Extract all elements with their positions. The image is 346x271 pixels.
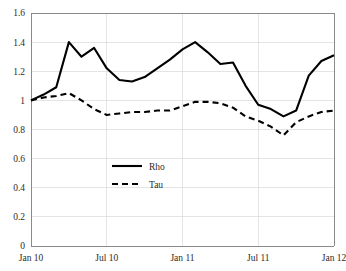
y-tick-label: 0.8 — [13, 125, 25, 135]
x-tick-label: Jul 10 — [95, 253, 118, 263]
legend-label-rho: Rho — [149, 162, 165, 172]
chart-legend: RhoTau — [112, 162, 165, 190]
y-tick-labels: 00.20.40.60.811.21.41.6 — [13, 8, 25, 251]
y-tick-label: 1.6 — [13, 8, 25, 18]
y-tick-label: 0.2 — [13, 212, 25, 222]
y-tick-label: 0.6 — [13, 154, 25, 164]
x-tick-labels: Jan 10Jul 10Jan 11Jul 11Jan 12 — [19, 253, 346, 263]
gridlines — [31, 13, 334, 246]
x-tick-label: Jul 11 — [247, 253, 270, 263]
x-tick-label: Jan 11 — [170, 253, 194, 263]
y-tick-label: 1.4 — [13, 38, 25, 48]
x-tick-label: Jan 10 — [19, 253, 44, 263]
x-tick-label: Jan 12 — [322, 253, 346, 263]
legend-label-tau: Tau — [149, 180, 163, 190]
y-tick-label: 1.2 — [13, 67, 25, 77]
y-tick-label: 0 — [20, 241, 25, 251]
y-tick-label: 1 — [20, 96, 25, 106]
chart-canvas: 00.20.40.60.811.21.41.6 Jan 10Jul 10Jan … — [0, 0, 346, 271]
line-chart: 00.20.40.60.811.21.41.6 Jan 10Jul 10Jan … — [0, 0, 346, 271]
y-tick-label: 0.4 — [13, 183, 25, 193]
